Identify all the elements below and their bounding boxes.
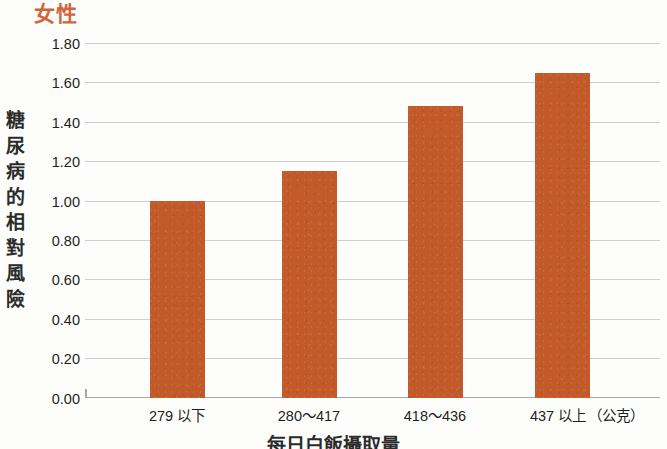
bar-437-or-more[interactable] xyxy=(535,73,590,398)
significance-marker: * xyxy=(447,119,455,136)
gridline xyxy=(85,43,660,44)
bar-418-436[interactable] xyxy=(408,106,463,398)
y-axis-origin-tick xyxy=(85,389,87,398)
y-tick-label: 0.60 xyxy=(34,273,80,287)
y-tick-label: 0.80 xyxy=(34,234,80,248)
bar-value-label: 1.00 xyxy=(122,214,232,232)
y-axis-title-char: 的 xyxy=(2,185,28,211)
significance-marker xyxy=(324,184,326,201)
bar-value-text: 1.00 xyxy=(160,214,191,231)
bar-value-label: 1.65* xyxy=(507,86,617,104)
y-axis-title-char: 糖 xyxy=(2,108,28,134)
y-tick-label: 0.20 xyxy=(34,352,80,366)
chart-title: 女性 xyxy=(34,1,78,27)
significance-marker xyxy=(192,214,194,231)
significance-marker: * xyxy=(574,86,582,103)
x-tick-label-280-417: 280〜417 xyxy=(244,404,374,425)
x-axis-unit-label: （公克） xyxy=(588,404,644,425)
y-tick-label: 1.80 xyxy=(34,37,80,51)
bar-value-label: 1.48* xyxy=(380,119,490,137)
y-tick-label: 0.40 xyxy=(34,313,80,327)
y-axis-title-char: 對 xyxy=(2,236,28,262)
y-tick-label: 1.60 xyxy=(34,76,80,90)
y-tick-label: 1.00 xyxy=(34,195,80,209)
y-axis-title-char: 險 xyxy=(2,287,28,313)
y-axis-title-char: 風 xyxy=(2,261,28,287)
y-axis-title-char: 尿 xyxy=(2,134,28,160)
y-axis-title-char: 病 xyxy=(2,159,28,185)
x-axis-title: 每日白飯攝取量 xyxy=(0,430,667,449)
bar-value-text: 1.65 xyxy=(543,86,574,103)
bar-value-text: 1.15 xyxy=(292,184,323,201)
y-axis-title-char: 相 xyxy=(2,210,28,236)
bar-value-label: 1.15 xyxy=(254,184,364,202)
y-tick-label: 0.00 xyxy=(34,392,80,406)
chart-figure: 女性 糖 尿 病 的 相 對 風 險 1.80 1.60 1.40 1.20 1… xyxy=(0,0,667,449)
y-tick-label: 1.20 xyxy=(34,155,80,169)
bar-280-417[interactable] xyxy=(282,171,337,398)
y-tick-label: 1.40 xyxy=(34,116,80,130)
y-axis-title: 糖 尿 病 的 相 對 風 險 xyxy=(2,108,28,312)
bar-value-text: 1.48 xyxy=(416,119,447,136)
x-tick-label-418-436: 418〜436 xyxy=(370,404,500,425)
plot-area: 1.00 1.15 1.48* 1.65* xyxy=(85,43,660,398)
x-tick-label-279-or-less: 279 以下 xyxy=(112,404,242,425)
y-axis-tick-labels: 1.80 1.60 1.40 1.20 1.00 0.80 0.60 0.40 … xyxy=(28,43,80,398)
